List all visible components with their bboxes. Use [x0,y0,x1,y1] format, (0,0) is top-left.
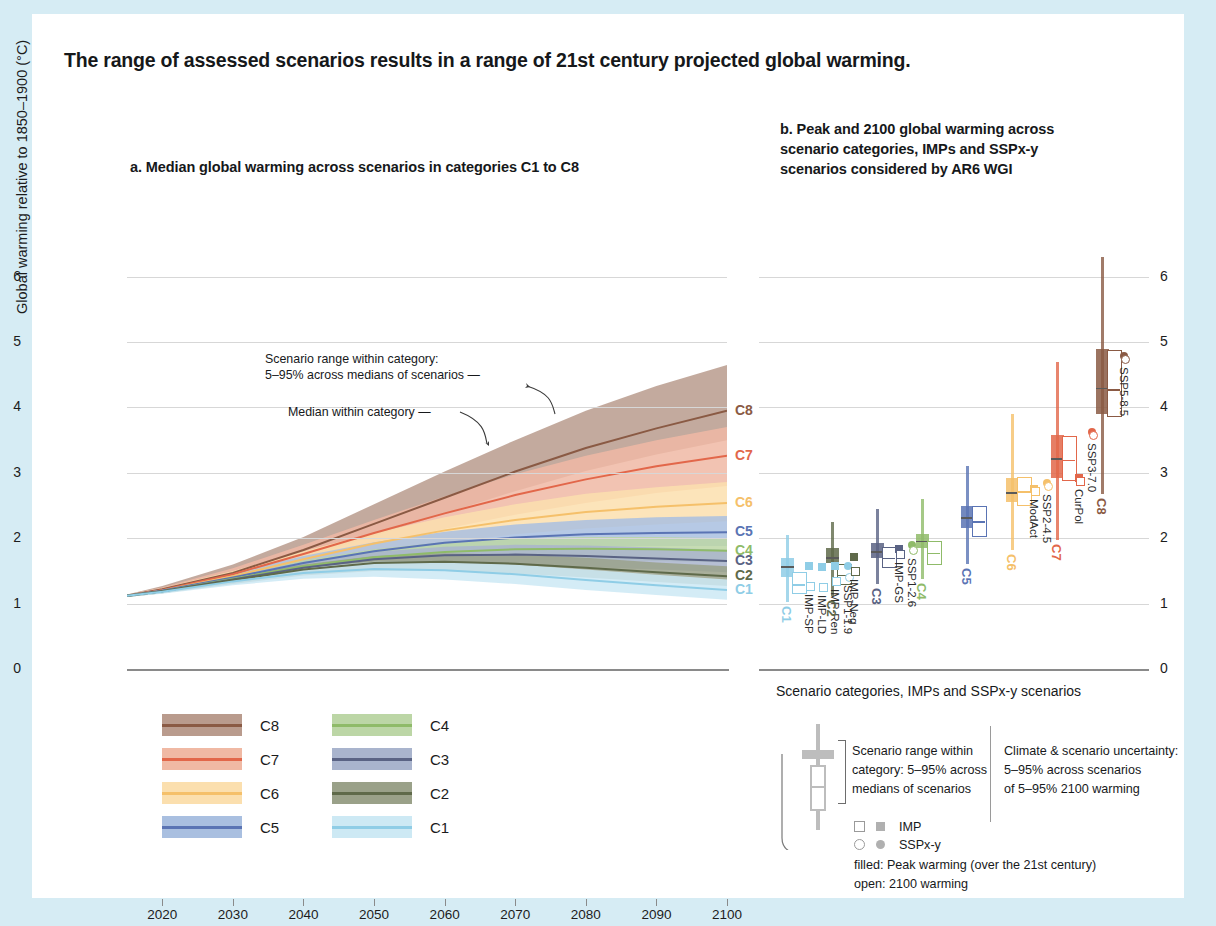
legend-label-C3: C3 [430,751,449,768]
marker-2100-IMP-SP [806,582,815,591]
legend-line-C7 [162,758,242,761]
legend-label-C2: C2 [430,785,449,802]
panel-b-title-line1: b. Peak and 2100 global warming across [780,119,1130,139]
legend-item-C4[interactable]: C4 [332,714,449,736]
panel-b-catlabel-C7: C7 [1049,544,1064,561]
gridline-y-5 [127,342,727,343]
panel-a-tickmark-2040 [303,899,304,906]
panel-b-title-line3: scenarios considered by AR6 WGI [780,159,1130,179]
panel-a-ylabel: Global warming relative to 1850–1900 (°C… [14,40,30,314]
median-2100-C6 [1017,491,1030,493]
legend-label-C7: C7 [260,751,279,768]
panel-b-gridline-0 [759,669,1149,671]
panel-a-tickmark-2030 [233,899,234,906]
legend-line-C5 [162,826,242,829]
panel-a-ytick-1: 1 [0,595,21,611]
legend-item-C2[interactable]: C2 [332,782,449,804]
panel-b-gridline-4 [759,407,1149,408]
panel-b-ytick-1: 1 [1160,595,1168,611]
legend-swatch-C7 [162,748,242,770]
legend-swatch-C8 [162,714,242,736]
gridline-y-0 [127,669,729,671]
marker-2100-SSP1-2.6 [909,546,918,555]
marker-peak-IMP-SP [805,562,813,570]
panel-a-ytick-4: 4 [0,398,21,414]
legend-marker-imp-row: IMP [854,817,921,835]
panel-b-xlabel: Scenario categories, IMPs and SSPx-y sce… [776,683,1081,699]
legend-item-C8[interactable]: C8 [162,714,279,736]
panel-a-ytick-2: 2 [0,529,21,545]
legend-uncertainty-text: Climate & scenario uncertainty: 5–95% ac… [1004,742,1194,799]
marker-2100-CurPol [1076,477,1085,486]
sspxy-filled-circle-icon [876,840,885,849]
legend-item-C3[interactable]: C3 [332,748,449,770]
panel-a-label-C6: C6 [735,494,753,510]
imp-filled-square-icon [876,822,885,831]
panel-a-xtick-2060: 2060 [430,907,460,922]
legend-item-C1[interactable]: C1 [332,816,449,838]
panel-a-tickmark-2100 [727,899,728,906]
median-peak-C2 [826,557,839,559]
panel-b-marker-label-ModAct: ModAct [1028,499,1040,538]
legend-label-C6: C6 [260,785,279,802]
panel-a-svg [127,244,727,674]
panel-a-tickmark-2060 [445,899,446,906]
panel-b-marker-label-SSP5-8.5: SSP5-8.5 [1118,367,1130,416]
panel-b-marker-label-IMP-SP: IMP-SP [803,594,815,634]
panel-a-tickmark-2090 [656,899,657,906]
legend-fill-notes: filled: Peak warming (over the 21st cent… [854,856,1174,894]
panel-a-xtick-2030: 2030 [218,907,248,922]
panel-a-plot: 202020302040205020602070208020902100 C8C… [127,244,727,669]
marker-peak-IMP-LD [818,563,826,571]
legend-bracket-left [838,740,846,804]
panel-b-ytick-5: 5 [1160,333,1168,349]
annotation-scenario-range: Scenario range within category: 5–95% ac… [265,351,480,383]
panel-b-catlabel-C6: C6 [1004,554,1019,571]
panel-a-label-C1: C1 [735,581,753,597]
panel-a-xtick-2020: 2020 [147,907,177,922]
panel-b-catlabel-C4: C4 [914,583,929,600]
panel-b-plot: IMP-SPIMP-LDIMP-RenSSP1-1.9IMP-NegIMP-GS… [759,244,1144,669]
panel-b-catlabel-C5: C5 [959,568,974,585]
panel-b-ytick-4: 4 [1160,398,1168,414]
panel-b-catlabel-C2: C2 [824,600,839,617]
legend-label-C1: C1 [430,819,449,836]
gridline-y-2 [127,538,727,539]
legend-swatch-C3 [332,748,412,770]
panel-b-ytick-6: 6 [1160,268,1168,284]
marker-2100-IMP-Neg [851,567,860,576]
marker-peak-IMP-Neg [850,553,858,561]
panel-b-gridline-6 [759,277,1149,278]
panel-a-xtick-2050: 2050 [359,907,389,922]
panel-a-xtick-2090: 2090 [641,907,671,922]
legend-line-C1 [332,826,412,829]
imp-open-square-icon [854,821,865,832]
legend-item-C6[interactable]: C6 [162,782,279,804]
panel-a-tickmark-2050 [374,899,375,906]
panel-a-xtick-2100: 2100 [712,907,742,922]
median-2100-C5 [972,521,985,523]
legend-line-C4 [332,724,412,727]
panel-b-marker-label-CurPol: CurPol [1073,489,1085,524]
median-2100-C7 [1062,460,1075,462]
panel-a-tickmark-2080 [586,899,587,906]
marker-2100-IMP-GS [896,550,905,559]
legend-item-C7[interactable]: C7 [162,748,279,770]
panel-b-ytick-3: 3 [1160,464,1168,480]
annotation-median: Median within category — [288,404,431,420]
legend-line-C8 [162,724,242,727]
panel-b-catlabel-C8: C8 [1094,498,1109,515]
panel-b-gridline-5 [759,342,1149,343]
legend-line-C3 [332,758,412,761]
legend-swatch-C5 [162,816,242,838]
sspxy-open-circle-icon [854,839,865,850]
gridline-y-3 [127,473,727,474]
panel-b-marker-label-SSP2-4.5: SSP2-4.5 [1041,494,1053,543]
panel-b-ytick-2: 2 [1160,529,1168,545]
legend-swatch-C6 [162,782,242,804]
legend-item-C5[interactable]: C5 [162,816,279,838]
panel-b-title: b. Peak and 2100 global warming across s… [780,119,1130,179]
marker-2100-IMP-Ren [832,577,841,586]
legend-marker-sspxy-row: SSPx-y [854,835,941,853]
panel-b-title-line2: scenario categories, IMPs and SSPx-y [780,139,1130,159]
